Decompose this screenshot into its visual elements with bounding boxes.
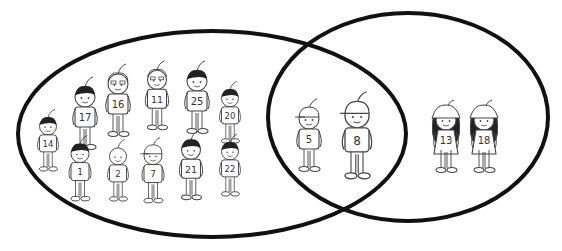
kid-figure: 16: [106, 64, 131, 137]
kid-number: 22: [225, 164, 236, 174]
kid-number: 16: [112, 99, 125, 110]
kid-number: 20: [225, 111, 236, 121]
kid-number: 5: [306, 134, 312, 145]
kid-figure: 2: [108, 139, 129, 201]
kid-figure: 18: [470, 100, 498, 173]
kid-figure: 13: [432, 100, 460, 173]
kid-number: 21: [185, 164, 197, 175]
kid-figure: 25: [185, 61, 210, 134]
kid-figure: 17: [73, 77, 98, 150]
kid-number: 1: [77, 167, 83, 177]
kid-figure: 11: [145, 61, 168, 130]
kid-figure: 20: [220, 81, 241, 143]
kid-number: 13: [440, 135, 453, 146]
kid-number: 2: [115, 169, 120, 179]
kid-number: 17: [79, 112, 92, 123]
kid-number: 11: [151, 94, 163, 105]
kid-figure: 8: [340, 92, 372, 179]
kid-number: 14: [43, 139, 54, 149]
kid-number: 8: [353, 134, 361, 148]
kid-figure: 7: [140, 138, 164, 203]
kid-figure: 22: [220, 134, 241, 196]
kid-figure: 21: [179, 131, 202, 200]
kid-number: 7: [150, 169, 156, 179]
kid-number: 25: [191, 96, 204, 107]
venn-diagram: 1417161125201272122581318: [0, 0, 562, 251]
kid-figure: 5: [295, 99, 321, 172]
kid-number: 18: [478, 135, 491, 146]
kid-figure: 14: [38, 109, 59, 171]
